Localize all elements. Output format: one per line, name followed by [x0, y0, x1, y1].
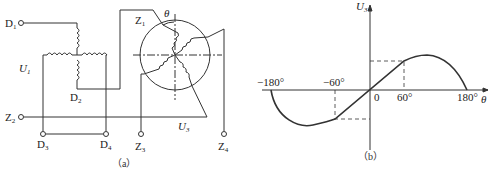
terminal-z3 — [139, 132, 144, 137]
rotor-coil-2 — [175, 37, 208, 55]
coil-d1d2-bottom — [77, 60, 79, 80]
coil-d3d4-right — [82, 53, 107, 55]
figure-a-labels: D1 U1 D2 Z1 θ Z2 D3 D4 Z3 U3 Z4 （a） — [5, 7, 229, 169]
terminal-z2 — [19, 115, 24, 120]
label-d1: D1 — [5, 17, 17, 31]
label-z4: Z4 — [218, 140, 229, 154]
rotor-coil-4 — [175, 55, 192, 86]
y-axis-arrow-icon — [368, 5, 372, 11]
coil-d3d4-left — [47, 53, 72, 55]
angle-arc — [163, 22, 174, 25]
terminal-z4 — [222, 132, 227, 137]
rotor-coil-1 — [163, 25, 179, 55]
label-u1: U1 — [19, 62, 30, 76]
terminal-d1 — [19, 21, 24, 26]
diagram-canvas: D1 U1 D2 Z1 θ Z2 D3 D4 Z3 U3 Z4 （a） U3 θ… — [0, 0, 492, 173]
figure-b-labels: U3 θ −180° −60° 0 60° 180° （b） — [257, 0, 487, 162]
caption-b: （b） — [358, 151, 383, 162]
tick-neg180: −180° — [257, 76, 284, 88]
figure-a-circuit — [19, 10, 227, 137]
label-theta: θ — [164, 7, 170, 19]
tick-zero: 0 — [374, 91, 380, 103]
terminal-d4 — [104, 132, 109, 137]
terminal-d3 — [41, 132, 46, 137]
tick-pos60: 60° — [397, 91, 412, 103]
x-axis-arrow-icon — [483, 88, 488, 92]
label-u3: U3 — [178, 120, 190, 134]
label-d2: D2 — [70, 91, 82, 105]
x-axis-label: θ — [481, 93, 487, 105]
label-z2: Z2 — [5, 111, 16, 125]
label-z3: Z3 — [135, 140, 146, 154]
label-d4: D4 — [100, 138, 112, 152]
tick-neg60: −60° — [323, 76, 345, 88]
label-d3: D3 — [37, 138, 49, 152]
y-axis-label: U3 — [356, 0, 368, 14]
coil-d1d2-top — [77, 28, 79, 48]
label-z1: Z1 — [135, 14, 146, 28]
tick-pos180: 180° — [457, 91, 478, 103]
caption-a: （a） — [112, 158, 136, 169]
rotor-coil-3 — [144, 55, 175, 74]
figure-b-chart — [262, 5, 488, 150]
